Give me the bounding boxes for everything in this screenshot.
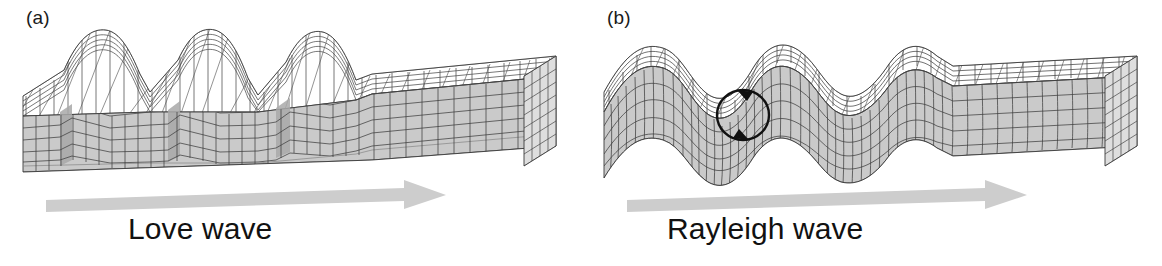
panel-love-wave: (a) Love wave	[0, 0, 581, 266]
caption-love-wave: Love wave	[128, 214, 588, 244]
love-side-face	[524, 56, 556, 166]
panel-rayleigh-wave: (b) Rayleigh wave	[581, 0, 1162, 266]
seismic-surface-wave-figure: (a) Love wave	[0, 0, 1162, 266]
panel-label-a: (a)	[26, 8, 50, 27]
caption-rayleigh-wave: Rayleigh wave	[667, 214, 1162, 244]
propagation-arrow-rayleigh	[627, 180, 1027, 212]
propagation-arrow-love	[46, 180, 446, 212]
rayleigh-side-face	[1105, 56, 1137, 166]
panel-label-b: (b)	[607, 8, 631, 27]
